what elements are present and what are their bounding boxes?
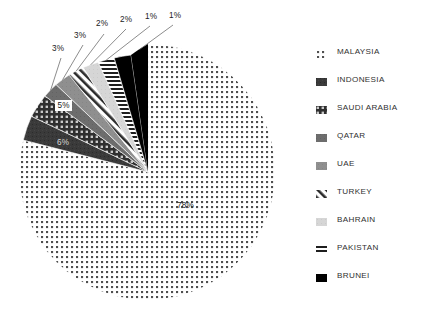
chart-legend: MALAYSIA INDONESIA SAUDI ARABIA QATAR UA… [316,38,434,290]
legend-swatch-saudi-arabia-icon [316,103,327,114]
legend-item-brunei[interactable]: BRUNEI [316,262,434,290]
legend-label: SAUDI ARABIA [337,104,397,112]
pie-value-label: 1% [145,13,157,21]
legend-label: UAE [337,160,355,168]
legend-item-malaysia[interactable]: MALAYSIA [316,38,434,66]
legend-item-qatar[interactable]: QATAR [316,122,434,150]
pie-value-label: 6% [57,139,69,147]
legend-item-pakistan[interactable]: PAKISTAN [316,234,434,262]
legend-label: INDONESIA [337,76,385,84]
legend-swatch-turkey-icon [316,187,327,198]
legend-item-bahrain[interactable]: BAHRAIN [316,206,434,234]
legend-item-indonesia[interactable]: INDONESIA [316,66,434,94]
pie-value-label: 78% [177,202,194,210]
legend-label: BAHRAIN [337,216,375,224]
legend-swatch-bahrain-icon [316,215,327,226]
pie-value-label: 3% [52,45,64,53]
pie-slices [19,44,275,300]
legend-swatch-brunei-icon [316,271,327,282]
legend-item-uae[interactable]: UAE [316,150,434,178]
legend-item-turkey[interactable]: TURKEY [316,178,434,206]
pie-value-label: 5% [55,100,72,111]
legend-label: BRUNEI [337,272,370,280]
legend-swatch-indonesia-icon [316,75,327,86]
pie-value-label: 1% [169,12,181,20]
pie-value-label: 3% [74,32,86,40]
legend-item-saudi-arabia[interactable]: SAUDI ARABIA [316,94,434,122]
legend-label: MALAYSIA [337,48,380,56]
legend-label: TURKEY [337,188,372,196]
pie-value-label: 2% [120,16,132,24]
legend-swatch-malaysia-icon [316,47,327,58]
legend-swatch-uae-icon [316,159,327,170]
legend-swatch-qatar-icon [316,131,327,142]
pie-value-label: 2% [96,20,108,28]
legend-label: PAKISTAN [337,244,379,252]
legend-label: QATAR [337,132,365,140]
legend-swatch-pakistan-icon [316,243,327,254]
